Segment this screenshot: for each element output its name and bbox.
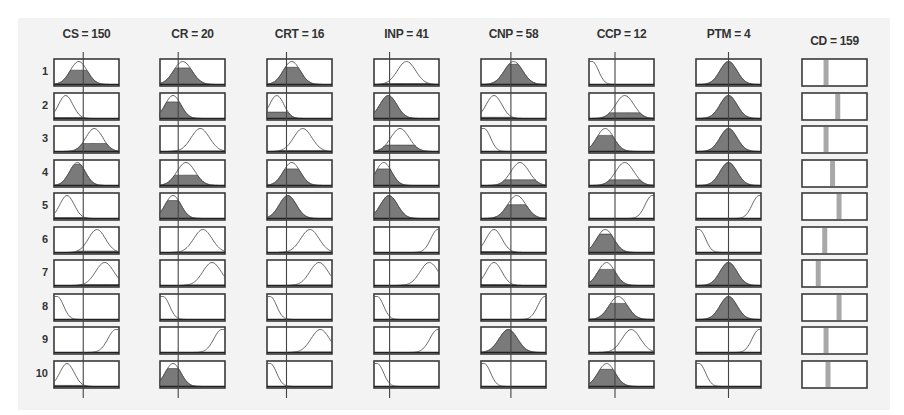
rule-8-cnp-plot [481,294,546,321]
rule-8-cr-plot [160,294,225,321]
rule-3-cs-plot [54,126,119,153]
output-bar [837,295,842,320]
rule-6-inp-plot [374,227,439,254]
rule-4-cd-plot [802,160,867,187]
rule-2-cnp-plot [481,93,546,120]
rule-6-cnp-plot [481,227,546,254]
rule-4-cs-plot [54,160,119,187]
membership-plots [18,18,890,410]
rule-2-cr-plot [160,93,225,120]
rule-5-cd-plot [802,193,867,220]
rule-6-cd-plot [802,227,867,254]
rule-2-inp-plot [374,93,439,120]
rule-1-cnp-plot [481,59,546,86]
output-bar [824,60,829,85]
rule-5-cnp-plot [481,193,546,220]
rule-10-cs-plot [54,361,119,388]
rule-2-ccp-plot [589,93,654,120]
rule-5-cr-plot [160,193,225,220]
column-crt [267,52,332,398]
rule-5-cs-plot [54,193,119,220]
rule-3-cnp-plot [481,126,546,153]
rule-10-cd-plot [802,361,867,388]
rule-1-cd-plot [802,59,867,86]
rule-7-crt-plot [267,260,332,287]
rule-3-crt-plot [267,126,332,153]
rule-1-crt-plot [267,59,332,86]
column-ccp [589,52,654,398]
column-inp [374,52,439,398]
rule-9-inp-plot [374,327,439,354]
column-cr [160,52,225,398]
rule-2-cs-plot [54,93,119,120]
rule-10-inp-plot [374,361,439,388]
output-bar [824,328,829,353]
output-bar [816,261,821,286]
rule-10-crt-plot [267,361,332,388]
rule-3-ccp-plot [589,126,654,153]
rule-viewer: CS = 150CR = 20CRT = 16INP = 41CNP = 58C… [18,18,890,410]
rule-8-cd-plot [802,294,867,321]
rule-6-crt-plot [267,227,332,254]
rule-10-cr-plot [160,361,225,388]
column-cnp [481,52,546,398]
rule-4-ccp-plot [589,160,654,187]
rule-3-cd-plot [802,126,867,153]
rule-1-ccp-plot [589,59,654,86]
rule-4-inp-plot [374,160,439,187]
rule-7-ccp-plot [589,260,654,287]
rule-9-cnp-plot [481,327,546,354]
rule-7-inp-plot [374,260,439,287]
rule-9-cd-plot [802,327,867,354]
rule-5-inp-plot [374,193,439,220]
output-bar [824,127,829,152]
rule-10-ccp-plot [589,361,654,388]
rule-3-cr-plot [160,126,225,153]
rule-2-crt-plot [267,93,332,120]
rule-7-cr-plot [160,260,225,287]
output-bar [822,228,827,253]
rule-7-cd-plot [802,260,867,287]
rule-7-cs-plot [54,260,119,287]
rule-2-cd-plot [802,93,867,120]
rule-5-ccp-plot [589,193,654,220]
rule-9-crt-plot [267,327,332,354]
rule-5-crt-plot [267,193,332,220]
rule-9-cs-plot [54,327,119,354]
rule-6-cr-plot [160,227,225,254]
rule-4-cr-plot [160,160,225,187]
rule-9-cr-plot [160,327,225,354]
rule-6-ccp-plot [589,227,654,254]
rule-4-cnp-plot [481,160,546,187]
rule-1-cr-plot [160,59,225,86]
rule-8-inp-plot [374,294,439,321]
column-ptm [696,52,761,398]
rule-7-cnp-plot [481,260,546,287]
rule-8-crt-plot [267,294,332,321]
output-bar [835,94,840,119]
output-bar [826,362,831,387]
column-cs [54,52,119,398]
rule-1-inp-plot [374,59,439,86]
output-bar [837,194,842,219]
rule-9-ccp-plot [589,327,654,354]
rule-8-ccp-plot [589,294,654,321]
rule-8-cs-plot [54,294,119,321]
rule-10-cnp-plot [481,361,546,388]
column-cd [802,59,867,388]
rule-3-inp-plot [374,126,439,153]
rule-1-cs-plot [54,59,119,86]
rule-4-crt-plot [267,160,332,187]
rule-6-cs-plot [54,227,119,254]
output-bar [830,161,835,186]
